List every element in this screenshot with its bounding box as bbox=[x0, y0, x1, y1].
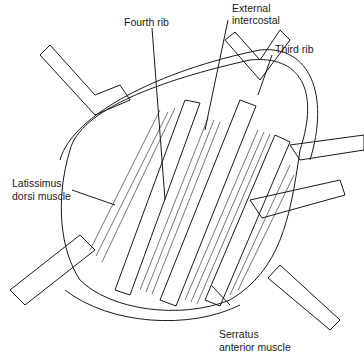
label-serratus-1: Serratus bbox=[219, 328, 259, 340]
label-external-intercostal-1: External bbox=[232, 2, 271, 14]
label-external-intercostal-2: intercostal bbox=[232, 14, 280, 26]
label-latissimus-1: Latissimus bbox=[12, 177, 62, 189]
retractor-bottom-right bbox=[268, 265, 340, 330]
retractor-top-right bbox=[225, 30, 290, 80]
retractor-bottom-left bbox=[10, 235, 95, 305]
label-fourth-rib: Fourth rib bbox=[124, 16, 169, 28]
rib-band bbox=[115, 100, 200, 295]
label-third-rib: Third rib bbox=[275, 43, 314, 55]
label-latissimus-2: dorsi muscle bbox=[12, 190, 71, 202]
retractor-right-lower bbox=[250, 180, 345, 218]
label-serratus-2: anterior muscle bbox=[219, 341, 291, 353]
rib-band bbox=[205, 135, 290, 306]
wound-outline bbox=[61, 60, 307, 311]
